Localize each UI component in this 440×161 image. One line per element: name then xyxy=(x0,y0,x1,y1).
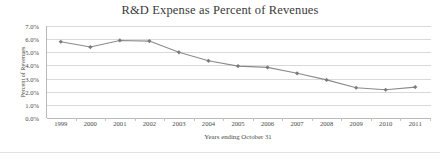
data-point-marker xyxy=(354,86,358,90)
y-tick-label: 7.0% xyxy=(25,23,39,30)
data-point-marker xyxy=(147,39,151,43)
y-tick-label: 4.0% xyxy=(25,62,39,69)
x-tick-label: 1999 xyxy=(54,120,67,127)
data-point-marker xyxy=(384,88,388,92)
x-tick-mark xyxy=(400,118,401,121)
x-tick-label: 2005 xyxy=(231,120,244,127)
x-tick-label: 2007 xyxy=(290,120,303,127)
x-tick-mark xyxy=(135,118,136,121)
data-point-marker xyxy=(236,64,240,68)
data-point-marker xyxy=(88,45,92,49)
data-point-marker xyxy=(118,38,122,42)
y-axis-tick-labels: 0.0%1.0%2.0%3.0%4.0%5.0%6.0%7.0% xyxy=(0,26,44,118)
x-tick-label: 2011 xyxy=(409,120,422,127)
x-tick-label: 2010 xyxy=(379,120,392,127)
x-tick-mark xyxy=(194,118,195,121)
x-tick-mark xyxy=(371,118,372,121)
data-point-marker xyxy=(325,78,329,82)
x-axis-title: Years ending October 31 xyxy=(46,133,430,140)
page-divider xyxy=(0,152,440,153)
x-axis-tick-labels: 1999200020012002200320042005200620072008… xyxy=(46,120,430,132)
x-tick-label: 2008 xyxy=(320,120,333,127)
y-tick-label: 5.0% xyxy=(25,49,39,56)
data-point-marker xyxy=(206,59,210,63)
data-point-marker xyxy=(59,40,63,44)
x-tick-mark xyxy=(312,118,313,121)
x-tick-mark xyxy=(164,118,165,121)
x-tick-label: 2009 xyxy=(350,120,363,127)
x-tick-label: 2004 xyxy=(202,120,215,127)
data-point-marker xyxy=(177,50,181,54)
x-tick-mark xyxy=(341,118,342,121)
y-tick-label: 6.0% xyxy=(25,36,39,43)
x-tick-label: 2003 xyxy=(172,120,185,127)
x-tick-label: 2001 xyxy=(113,120,126,127)
x-tick-mark xyxy=(223,118,224,121)
x-tick-label: 2006 xyxy=(261,120,274,127)
data-series-line xyxy=(46,26,430,118)
x-tick-mark xyxy=(430,118,431,121)
y-tick-label: 3.0% xyxy=(25,75,39,82)
x-tick-label: 2002 xyxy=(143,120,156,127)
x-tick-label: 2000 xyxy=(84,120,97,127)
data-point-marker xyxy=(413,85,417,89)
chart-figure: R&D Expense as Percent of Revenues Perce… xyxy=(0,0,440,161)
y-tick-label: 1.0% xyxy=(25,101,39,108)
data-point-marker xyxy=(295,71,299,75)
x-tick-mark xyxy=(105,118,106,121)
data-point-marker xyxy=(265,65,269,69)
x-tick-mark xyxy=(76,118,77,121)
y-tick-label: 0.0% xyxy=(25,115,39,122)
x-tick-mark xyxy=(253,118,254,121)
chart-title: R&D Expense as Percent of Revenues xyxy=(0,3,440,18)
y-tick-label: 2.0% xyxy=(25,88,39,95)
x-tick-mark xyxy=(282,118,283,121)
